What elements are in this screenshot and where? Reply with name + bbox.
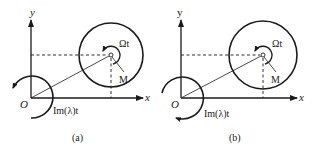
y-axis-label: y: [177, 6, 183, 18]
point-m-leader: [264, 57, 276, 72]
point-m-label: M: [119, 74, 128, 85]
panel-b: y x O Ωt M Im(λ)t (b): [162, 6, 304, 144]
panel-caption: (b): [229, 132, 241, 144]
disk-center: [261, 53, 265, 57]
panel-caption: (a): [72, 132, 83, 144]
orbit-label: Im(λ)t: [204, 108, 230, 120]
origin-label: O: [171, 98, 179, 110]
origin-label: O: [20, 98, 28, 110]
point-m-leader: [112, 57, 124, 72]
panel-a: y x O Ωt M Im(λ)t (a): [13, 6, 150, 144]
radius-line: [181, 56, 261, 98]
spin-label: Ωt: [272, 38, 282, 49]
x-axis-label: x: [144, 91, 150, 103]
x-axis-label: x: [298, 91, 304, 103]
y-axis-label: y: [29, 6, 35, 18]
spin-label: Ωt: [119, 38, 129, 49]
disk-center: [109, 53, 113, 57]
whirl-diagram: y x O Ωt M Im(λ)t (a) y x O Ω: [0, 0, 315, 155]
orbit-label: Im(λ)t: [53, 105, 79, 117]
radius-line: [31, 56, 109, 98]
point-m-label: M: [271, 74, 280, 85]
